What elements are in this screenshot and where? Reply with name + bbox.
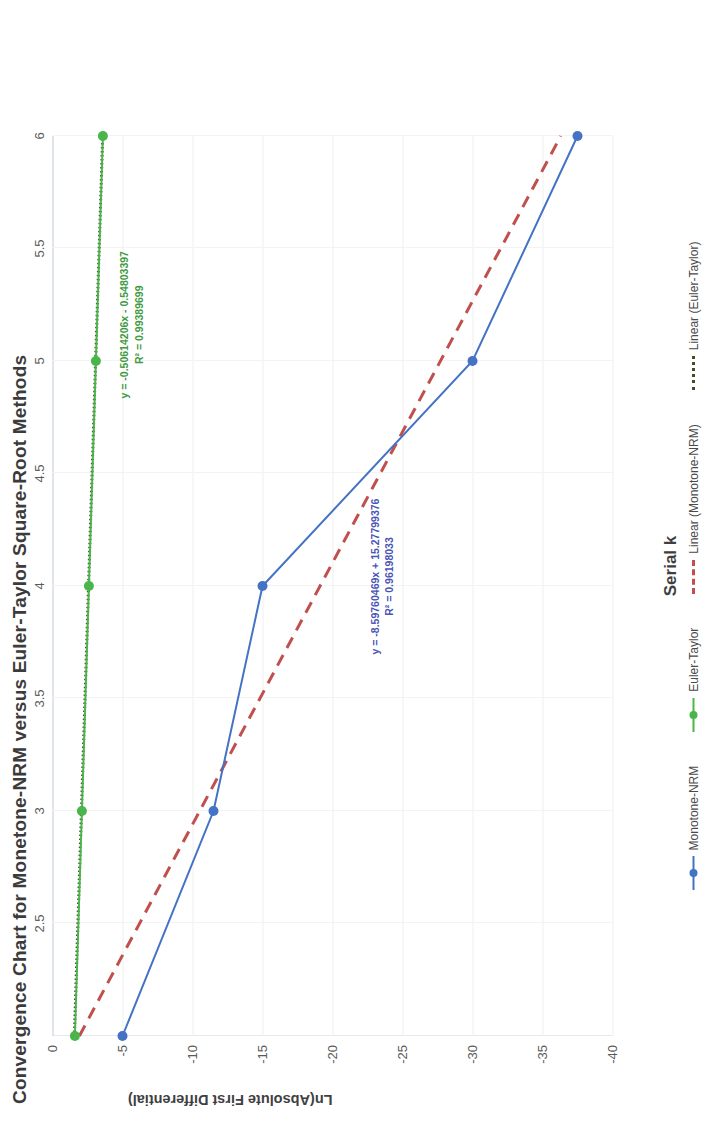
data-point[interactable]	[69, 1031, 79, 1041]
legend-swatch-icon	[687, 356, 699, 390]
y-tick-label: -35	[535, 1045, 550, 1064]
chart-title: Convergence Chart for Monetone-NRM versu…	[8, 0, 30, 1132]
trendline-linear-monotone-nrm-	[79, 136, 560, 1036]
legend-item-linear-euler-taylor-[interactable]: Linear (Euler-Taylor)	[686, 242, 700, 391]
x-tick-label: 4	[31, 582, 46, 589]
annotation-equation: y = -0.50614206x - 0.54803397	[116, 230, 130, 420]
data-point[interactable]	[257, 581, 267, 591]
legend-marker-icon	[689, 711, 697, 719]
data-point[interactable]	[83, 581, 93, 591]
x-tick-label: 3.5	[31, 689, 46, 707]
legend-label: Monotone-NRM	[686, 766, 700, 851]
y-tick-label: -10	[185, 1045, 200, 1064]
legend-item-linear-monotone-nrm-[interactable]: Linear (Monotone-NRM)	[686, 424, 700, 593]
x-tick-label: 4.5	[31, 464, 46, 482]
legend-swatch-icon	[687, 698, 699, 732]
legend-label: Linear (Euler-Taylor)	[686, 242, 700, 351]
x-axis-title: Serial k	[660, 0, 680, 1132]
annotation-euler-taylor-fit: y = -0.50614206x - 0.54803397 R² = 0.993…	[116, 230, 144, 420]
y-tick-label: -25	[395, 1045, 410, 1064]
annotation-r2: R² = 0.99389699	[131, 230, 145, 420]
chart-canvas: Convergence Chart for Monetone-NRM versu…	[0, 0, 721, 1132]
x-tick-label: 3	[31, 807, 46, 814]
legend-label: Linear (Monotone-NRM)	[686, 424, 700, 553]
y-tick-label: -40	[605, 1045, 620, 1064]
y-tick-label: -20	[325, 1045, 340, 1064]
y-tick-label: 0	[45, 1045, 60, 1052]
legend-marker-icon	[689, 869, 697, 877]
x-tick-label: 5	[31, 357, 46, 364]
legend-item-monotone-nrm[interactable]: Monotone-NRM	[686, 766, 700, 891]
data-point[interactable]	[572, 131, 582, 141]
annotation-monotone-nrm-fit: y = -8.59760469x + 15.27799376 R² = 0.96…	[367, 477, 395, 677]
data-point[interactable]	[117, 1031, 127, 1041]
legend-swatch-icon	[687, 560, 699, 594]
x-tick-label: 6	[31, 132, 46, 139]
data-point[interactable]	[76, 806, 86, 816]
plot-area: 0-5-10-15-20-25-30-35-40 2.533.544.555.5…	[52, 136, 612, 1036]
y-tick-label: -15	[255, 1045, 270, 1064]
legend-label: Euler-Taylor	[686, 628, 700, 692]
dataline-monotone-nrm	[122, 136, 577, 1036]
y-axis-title: Ln(Absolute First Differential)	[127, 1092, 332, 1108]
data-point[interactable]	[90, 356, 100, 366]
chart-legend: Monotone-NRMEuler-TaylorLinear (Monotone…	[686, 0, 700, 1132]
annotation-equation: y = -8.59760469x + 15.27799376	[367, 477, 381, 677]
x-tick-label: 5.5	[31, 239, 46, 257]
x-tick-label: 2.5	[31, 914, 46, 932]
data-point[interactable]	[97, 131, 107, 141]
data-point[interactable]	[208, 806, 218, 816]
y-tick-label: -30	[465, 1045, 480, 1064]
legend-item-euler-taylor[interactable]: Euler-Taylor	[686, 628, 700, 732]
legend-swatch-icon	[687, 856, 699, 890]
annotation-r2: R² = 0.96198033	[381, 477, 395, 677]
y-tick-label: -5	[115, 1045, 130, 1057]
